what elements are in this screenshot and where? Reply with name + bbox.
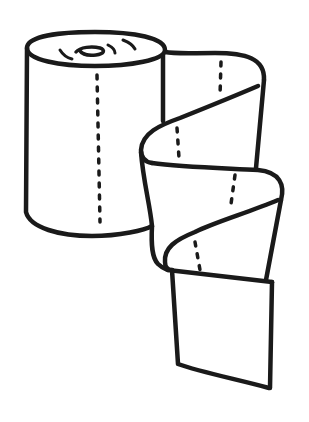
- unrolled-sheet-middle: [141, 152, 282, 280]
- paper-towel-illustration: paper towel roll: [0, 0, 309, 422]
- unrolled-sheet-upper: [141, 52, 264, 168]
- unrolled-sheet-lower: [168, 270, 272, 388]
- roll-top: [27, 32, 165, 66]
